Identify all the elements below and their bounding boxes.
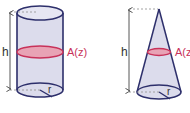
cylinder-cross-section — [17, 46, 63, 58]
cone-cross-section-label: A(z — [175, 46, 190, 58]
cylinder-height-label: h — [2, 45, 9, 59]
solids-diagram: h A(z) r h A(z r — [0, 0, 190, 113]
cone-height-label: h — [121, 45, 128, 59]
cylinder-cross-section-label: A(z) — [67, 46, 87, 58]
cylinder: h A(z) r — [2, 6, 87, 97]
cone: h A(z r — [121, 9, 190, 99]
cylinder-top-ellipse — [17, 6, 63, 20]
cone-cross-section — [148, 49, 171, 56]
